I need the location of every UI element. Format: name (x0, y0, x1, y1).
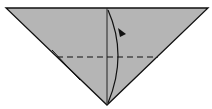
origami-diagram (0, 0, 212, 109)
